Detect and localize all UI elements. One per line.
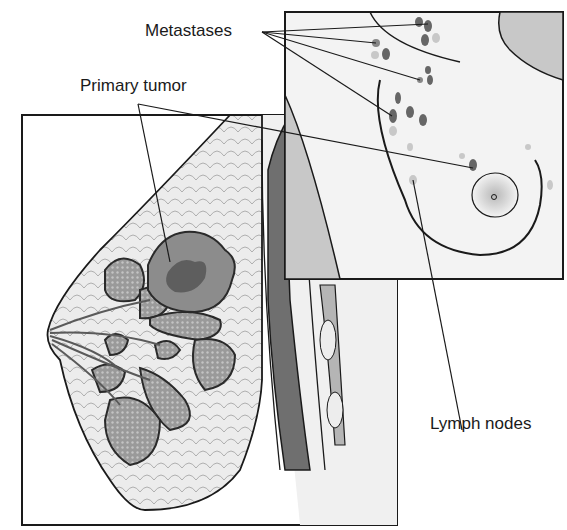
lymph-nodes-label: Lymph nodes xyxy=(430,414,531,434)
metastases-label: Metastases xyxy=(145,21,232,41)
primary-tumor-label: Primary tumor xyxy=(80,76,187,96)
